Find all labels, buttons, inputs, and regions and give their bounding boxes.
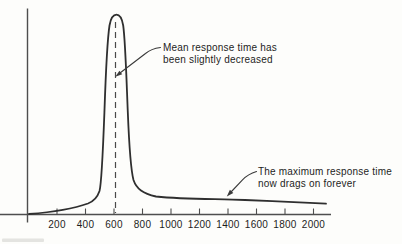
x-axis-ticks [57, 209, 314, 215]
tick-label-1600: 1600 [245, 219, 269, 230]
annotation-max-line1: The maximum response time [258, 166, 392, 177]
tick-label-1000: 1000 [159, 219, 183, 230]
tick-label-600: 600 [105, 219, 123, 230]
annotation-mean-line1: Mean response time has [163, 42, 277, 53]
x-axis-tick-labels: 200 400 600 800 1000 1200 1400 1600 1800… [48, 219, 325, 230]
tick-label-800: 800 [134, 219, 152, 230]
annotation-max: The maximum response time now drags on f… [227, 166, 392, 197]
tick-label-1800: 1800 [273, 219, 297, 230]
max-arrow-line [232, 172, 257, 192]
cropped-caption-fragment [2, 239, 44, 243]
annotation-mean: Mean response time has been slightly dec… [115, 42, 277, 77]
annotation-mean-line2: been slightly decreased [163, 54, 273, 65]
tick-label-1200: 1200 [188, 219, 212, 230]
tick-label-400: 400 [77, 219, 95, 230]
tick-label-2000: 2000 [302, 219, 326, 230]
tick-label-1400: 1400 [216, 219, 240, 230]
figure-response-time-chart: 200 400 600 800 1000 1200 1400 1600 1800… [0, 0, 402, 244]
chart-canvas: 200 400 600 800 1000 1200 1400 1600 1800… [0, 0, 402, 244]
tick-label-200: 200 [48, 219, 66, 230]
annotation-max-line2: now drags on forever [258, 178, 356, 189]
